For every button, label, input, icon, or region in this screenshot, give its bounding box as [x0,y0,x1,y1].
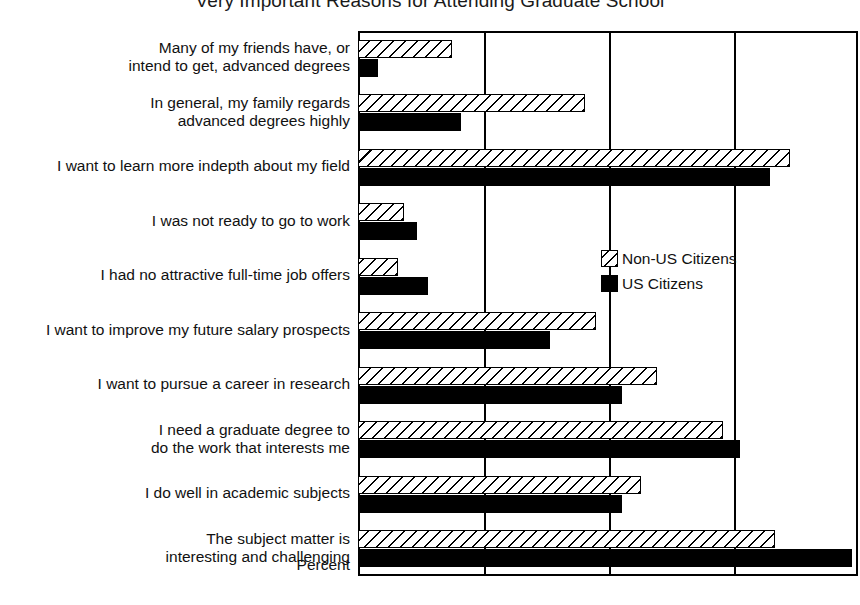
legend-label: Non-US Citizens [622,250,737,267]
bar-us-citizens [358,331,550,349]
x-axis-title: Percent [20,556,350,574]
bar-non-us-citizens [358,40,452,58]
bar-non-us-citizens [358,530,775,548]
bar-non-us-citizens [358,476,641,494]
bar-us-citizens [358,386,622,404]
category-label: I want to improve my future salary prosp… [20,321,350,339]
bar-non-us-citizens [358,203,404,221]
category-label: I need a graduate degree to do the work … [20,421,350,457]
legend-label: US Citizens [622,275,703,292]
chart-legend: Non-US CitizensUS Citizens [601,246,737,296]
bar-non-us-citizens [358,312,596,330]
category-label: I do well in academic subjects [20,484,350,502]
bar-us-citizens [358,440,740,458]
category-label: I was not ready to go to work [20,212,350,230]
bar-non-us-citizens [358,421,723,439]
bar-us-citizens [358,222,417,240]
bar-non-us-citizens [358,149,790,167]
legend-swatch-icon [601,275,618,292]
bar-non-us-citizens [358,367,657,385]
bar-us-citizens [358,59,378,77]
bar-non-us-citizens [358,94,585,112]
chart-title: Very Important Reasons for Attending Gra… [0,0,860,14]
bar-non-us-citizens [358,258,398,276]
bar-us-citizens [358,277,428,295]
category-label: Many of my friends have, or intend to ge… [20,39,350,75]
legend-item: Non-US Citizens [601,246,737,271]
bar-us-citizens [358,549,852,567]
category-label: I want to learn more indepth about my fi… [20,157,350,175]
legend-swatch-icon [601,250,618,267]
bar-us-citizens [358,495,622,513]
category-label: In general, my family regards advanced d… [20,94,350,130]
gridline-75 [734,33,736,574]
chart-figure: Very Important Reasons for Attending Gra… [0,0,860,605]
category-label: I had no attractive full-time job offers [20,266,350,284]
category-label: I want to pursue a career in research [20,375,350,393]
bar-us-citizens [358,168,770,186]
legend-item: US Citizens [601,271,737,296]
bar-us-citizens [358,113,461,131]
